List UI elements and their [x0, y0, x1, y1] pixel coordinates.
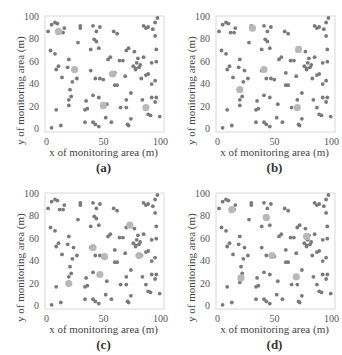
sensor-node-marker: [300, 117, 304, 121]
cluster-head-marker: [237, 274, 244, 281]
y-tick-label: 80: [200, 210, 210, 221]
sensor-node-marker: [97, 96, 101, 100]
sensor-node-marker: [146, 202, 150, 206]
y-tick-label: 20: [200, 278, 210, 289]
sensor-node-marker: [268, 273, 272, 277]
sensor-node-marker: [151, 204, 155, 208]
cluster-head-marker: [228, 206, 235, 213]
sensor-node-marker: [154, 96, 158, 100]
sensor-node-marker: [67, 235, 71, 239]
sensor-node-marker: [281, 120, 285, 124]
sensor-node-marker: [264, 300, 268, 304]
sensor-node-marker: [54, 245, 58, 249]
sensor-node-marker: [284, 248, 288, 252]
sensor-node-marker: [300, 91, 304, 95]
sensor-node-marker: [76, 41, 80, 45]
y-tick-label: 100: [24, 11, 39, 22]
y-tick-label: 0: [34, 123, 39, 134]
sensor-node-marker: [135, 238, 139, 242]
sensor-node-marker: [240, 95, 244, 99]
sensor-node-marker: [275, 116, 279, 120]
sensor-node-marker: [139, 77, 143, 81]
sensor-node-marker: [112, 30, 116, 34]
sensor-node-marker: [268, 223, 272, 227]
sensor-node-marker: [327, 193, 331, 197]
y-tick-label: 40: [29, 78, 39, 89]
sensor-node-marker: [238, 98, 242, 102]
y-axis-label: y of monitoring area (m): [14, 213, 26, 322]
sensor-node-marker: [225, 245, 229, 249]
sensor-node-marker: [153, 198, 157, 202]
sensor-node-marker: [153, 211, 157, 215]
sensor-node-marker: [49, 49, 53, 53]
y-tick-label: 20: [29, 101, 39, 112]
sensor-node-marker: [46, 30, 50, 34]
sensor-node-marker: [294, 74, 298, 78]
sensor-node-marker: [68, 88, 72, 92]
sensor-node-marker: [321, 273, 325, 277]
x-axis-label: x of monitoring area (m): [189, 146, 342, 158]
scatter-panel-a: 020406080100050100x of monitoring area (…: [0, 0, 171, 177]
sensor-node-marker: [93, 254, 97, 258]
sensor-node-marker: [317, 72, 321, 76]
sensor-node-marker: [59, 301, 63, 305]
sensor-node-marker: [69, 272, 73, 276]
sensor-node-marker: [317, 25, 321, 29]
sensor-node-marker: [78, 24, 82, 28]
sensor-node-marker: [124, 98, 128, 102]
y-axis-label: y of monitoring area (m): [185, 213, 197, 322]
sensor-node-marker: [230, 124, 234, 128]
sensor-node-marker: [324, 211, 328, 215]
sensor-node-marker: [217, 30, 221, 34]
sensor-node-marker: [255, 276, 259, 280]
sensor-node-marker: [294, 251, 298, 255]
sensor-node-marker: [89, 48, 93, 52]
sensor-node-marker: [115, 83, 119, 87]
sensor-node-marker: [292, 59, 296, 63]
sensor-node-marker: [154, 225, 158, 229]
sensor-node-marker: [221, 126, 225, 130]
sensor-node-marker: [50, 126, 54, 130]
scatter-panel-b: 020406080100050100x of monitoring area (…: [171, 0, 342, 177]
sensor-node-marker: [95, 40, 99, 44]
sensor-node-marker: [325, 60, 329, 64]
sensor-node-marker: [290, 106, 294, 110]
sensor-node-marker: [227, 22, 231, 26]
cluster-head-marker: [268, 252, 275, 259]
sensor-node-marker: [93, 123, 97, 127]
sensor-node-marker: [141, 275, 145, 279]
sensor-node-marker: [217, 207, 221, 211]
sensor-node-marker: [98, 25, 102, 29]
sensor-node-marker: [312, 98, 316, 102]
sensor-node-marker: [321, 82, 325, 86]
sensor-node-marker: [67, 58, 71, 62]
sensor-node-marker: [97, 302, 101, 306]
sensor-node-marker: [54, 285, 58, 289]
sensor-node-marker: [308, 65, 312, 69]
sensor-node-marker: [260, 225, 264, 229]
panel-caption: (b): [189, 160, 342, 176]
sensor-node-marker: [281, 297, 285, 301]
cluster-head-marker: [294, 104, 301, 111]
sensor-node-marker: [238, 58, 242, 62]
sensor-node-marker: [247, 218, 251, 222]
sensor-node-marker: [60, 253, 64, 257]
sensor-node-marker: [329, 292, 333, 296]
sensor-node-marker: [98, 202, 102, 206]
sensor-node-marker: [231, 253, 235, 257]
sensor-node-marker: [315, 283, 319, 287]
sensor-node-marker: [67, 275, 71, 279]
sensor-node-marker: [153, 79, 157, 83]
sensor-node-marker: [154, 60, 158, 64]
sensor-node-marker: [233, 26, 237, 30]
sensor-node-marker: [56, 199, 60, 203]
sensor-node-marker: [266, 30, 270, 34]
sensor-node-marker: [286, 83, 290, 87]
sensor-node-marker: [129, 91, 133, 95]
sensor-node-marker: [70, 80, 74, 84]
sensor-node-marker: [321, 238, 325, 242]
sensor-node-marker: [62, 26, 66, 30]
sensor-node-marker: [50, 200, 54, 204]
sensor-node-marker: [324, 256, 328, 260]
sensor-node-marker: [233, 203, 237, 207]
